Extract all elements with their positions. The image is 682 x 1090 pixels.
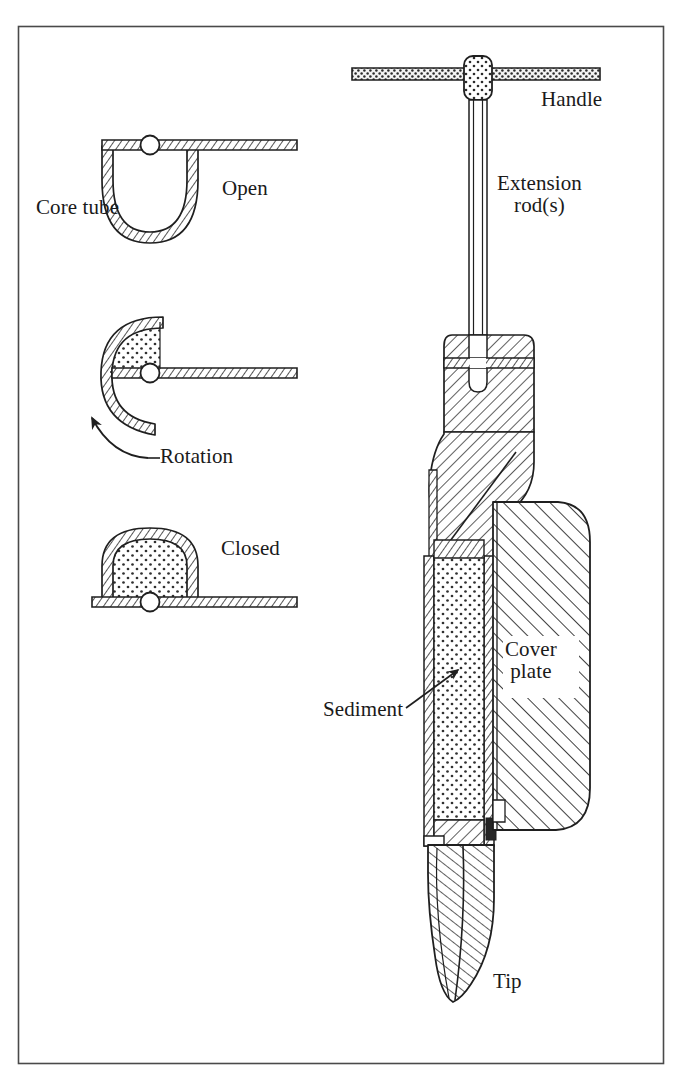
sediment-corer-diagram (0, 0, 682, 1090)
tube-upper-plug (434, 540, 484, 558)
figure-root: Core tube Open Rotation Closed Handle Ex… (0, 0, 682, 1090)
label-extension-rod: Extension rod(s) (497, 172, 582, 217)
label-rotation: Rotation (160, 445, 233, 467)
sediment-fill-closed (113, 538, 187, 597)
cover-plate-bar-closed (92, 597, 297, 607)
extension-rod (469, 100, 487, 340)
handle-hub (464, 56, 492, 100)
label-closed: Closed (221, 537, 280, 559)
label-tip: Tip (493, 970, 522, 992)
core-tube-wall-left (424, 556, 434, 846)
pivot-rotation (141, 364, 160, 383)
label-core-tube: Core tube (36, 196, 119, 218)
cross-section-rotation (92, 317, 297, 458)
rod-socket-mask (470, 358, 486, 368)
label-sediment: Sediment (323, 698, 403, 720)
head-block-upper-body (444, 335, 534, 432)
tip-assembly (428, 845, 494, 1002)
extension-rod-tube (469, 100, 487, 340)
cover-plate-notch (493, 800, 505, 822)
pivot-open (141, 136, 160, 155)
label-extension-rod-line1: Extension (497, 172, 582, 194)
label-cover-plate-line2: plate (505, 660, 557, 682)
label-cover-plate: Cover plate (505, 638, 557, 683)
head-collar-band (444, 358, 534, 368)
pivot-closed (141, 593, 160, 612)
label-open: Open (222, 177, 268, 199)
label-cover-plate-line1: Cover (505, 638, 557, 660)
sediment-column (434, 556, 484, 820)
label-extension-rod-line2: rod(s) (497, 194, 582, 216)
cover-plate-bar-open (102, 140, 297, 150)
tip-body (428, 845, 494, 1002)
label-handle: Handle (541, 88, 602, 110)
core-tube-body (424, 540, 496, 848)
